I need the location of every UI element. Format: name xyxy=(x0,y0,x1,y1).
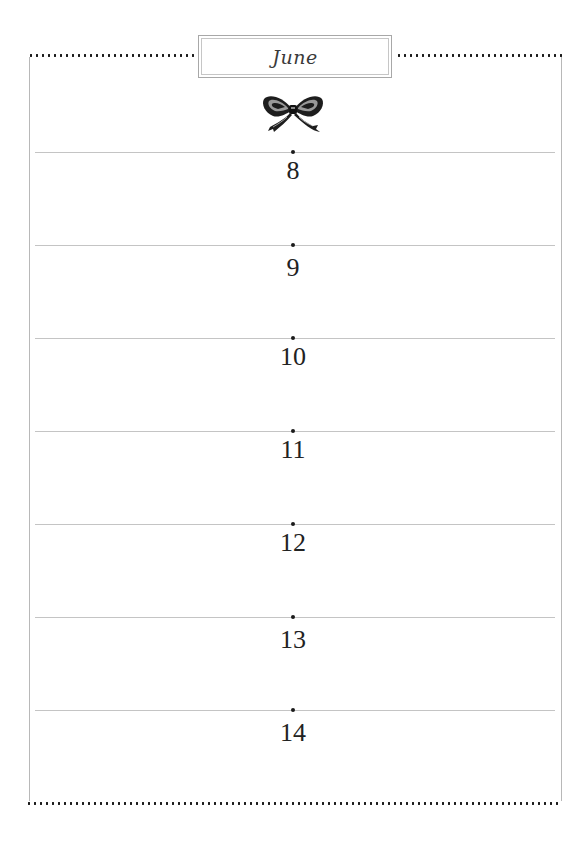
day-section-11: 11 xyxy=(35,431,555,524)
divider-dot xyxy=(291,615,295,619)
day-divider xyxy=(35,152,555,153)
divider-dot xyxy=(291,429,295,433)
day-number: 12 xyxy=(35,528,551,558)
day-divider xyxy=(35,710,555,711)
day-section-8: 8 xyxy=(35,152,555,245)
day-divider xyxy=(35,617,555,618)
day-divider xyxy=(35,338,555,339)
divider-dot xyxy=(291,243,295,247)
divider-dot xyxy=(291,150,295,154)
day-section-10: 10 xyxy=(35,338,555,431)
day-divider xyxy=(35,524,555,525)
day-divider xyxy=(35,245,555,246)
planner-page: June 8 9 10 xyxy=(0,0,581,849)
day-section-14: 14 xyxy=(35,710,555,803)
month-title-box-inner: June xyxy=(201,38,389,75)
divider-dot xyxy=(291,708,295,712)
top-dotted-rule-left xyxy=(28,54,196,57)
day-section-12: 12 xyxy=(35,524,555,617)
divider-dot xyxy=(291,336,295,340)
top-dotted-rule-right xyxy=(396,54,562,57)
day-section-13: 13 xyxy=(35,617,555,710)
day-number: 14 xyxy=(35,718,551,748)
day-number: 11 xyxy=(35,435,551,465)
divider-dot xyxy=(291,522,295,526)
frame-right-border xyxy=(561,57,562,801)
month-title-box: June xyxy=(198,35,392,78)
month-title: June xyxy=(272,46,317,68)
day-section-9: 9 xyxy=(35,245,555,338)
day-number: 9 xyxy=(35,253,551,283)
bow-ribbon-icon xyxy=(261,91,325,134)
day-divider xyxy=(35,431,555,432)
day-number: 8 xyxy=(35,156,551,186)
day-number: 10 xyxy=(35,342,551,372)
day-number: 13 xyxy=(35,625,551,655)
frame-left-border xyxy=(29,57,30,801)
